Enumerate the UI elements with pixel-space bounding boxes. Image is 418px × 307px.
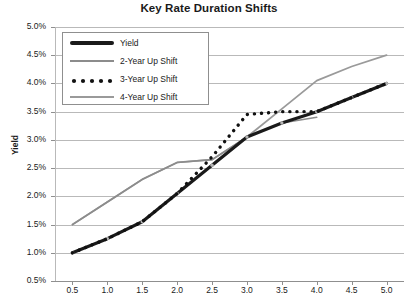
y-axis-tick-label: 1.0% (0, 247, 46, 257)
y-axis-tick-label: 2.5% (0, 162, 46, 172)
x-axis-tick-label: 4.0 (302, 285, 332, 295)
x-axis-tick-label: 0.5 (57, 285, 87, 295)
legend-label: Yield (120, 38, 139, 48)
legend-swatch-black-dots (70, 73, 114, 85)
y-axis-tick-label: 3.5% (0, 106, 46, 116)
x-axis-tick-label: 1.5 (127, 285, 157, 295)
x-axis-tick-label: 1.0 (92, 285, 122, 295)
x-axis-tick-mark (212, 281, 213, 285)
x-axis-tick-label: 2.5 (197, 285, 227, 295)
legend-item: 2-Year Up Shift (63, 53, 208, 69)
x-axis-tick-label: 5.0 (372, 285, 402, 295)
x-axis-tick-mark (142, 281, 143, 285)
legend-item: 3-Year Up Shift (63, 71, 208, 87)
x-axis-tick-mark (352, 281, 353, 285)
x-axis-tick-mark (317, 281, 318, 285)
y-axis-tick-mark (51, 281, 55, 282)
x-axis-tick-mark (282, 281, 283, 285)
data-point-marker (280, 121, 283, 124)
legend-label: 3-Year Up Shift (120, 74, 177, 84)
x-axis-tick-label: 3.5 (267, 285, 297, 295)
y-axis-tick-label: 0.5% (0, 275, 46, 285)
y-axis-tick-label: 5.0% (0, 21, 46, 31)
x-axis-tick-label: 4.5 (337, 285, 367, 295)
legend-swatch-thin-gray-line (70, 91, 114, 103)
legend-item: Yield (63, 35, 208, 51)
data-point-marker (245, 135, 248, 138)
y-axis-tick-label: 4.5% (0, 49, 46, 59)
x-axis-tick-mark (72, 281, 73, 285)
chart-title: Key Rate Duration Shifts (0, 2, 418, 14)
series-line-3-year-up-shift (72, 83, 386, 252)
y-axis-tick-label: 4.0% (0, 77, 46, 87)
legend-swatch-thin-gray-line (70, 55, 114, 67)
legend-label: 2-Year Up Shift (120, 56, 177, 66)
y-axis-tick-label: 1.5% (0, 219, 46, 229)
series-line-yield (72, 83, 386, 252)
x-axis-tick-mark (177, 281, 178, 285)
x-axis-tick-label: 2.0 (162, 285, 192, 295)
x-axis-tick-mark (107, 281, 108, 285)
chart-legend: Yield2-Year Up Shift3-Year Up Shift4-Yea… (62, 32, 209, 105)
x-axis-tick-mark (247, 281, 248, 285)
y-axis-tick-label: 3.0% (0, 134, 46, 144)
chart-container: Key Rate Duration Shifts Yield 0.5%1.0%1… (0, 0, 418, 307)
legend-item: 4-Year Up Shift (63, 89, 208, 105)
series-line-2-year-up-shift (72, 117, 316, 224)
data-point-marker (210, 164, 213, 167)
x-axis-tick-mark (387, 281, 388, 285)
legend-swatch-thick-black-line (70, 37, 114, 49)
legend-label: 4-Year Up Shift (120, 92, 177, 102)
y-axis-tick-label: 2.0% (0, 190, 46, 200)
x-axis-tick-label: 3.0 (232, 285, 262, 295)
